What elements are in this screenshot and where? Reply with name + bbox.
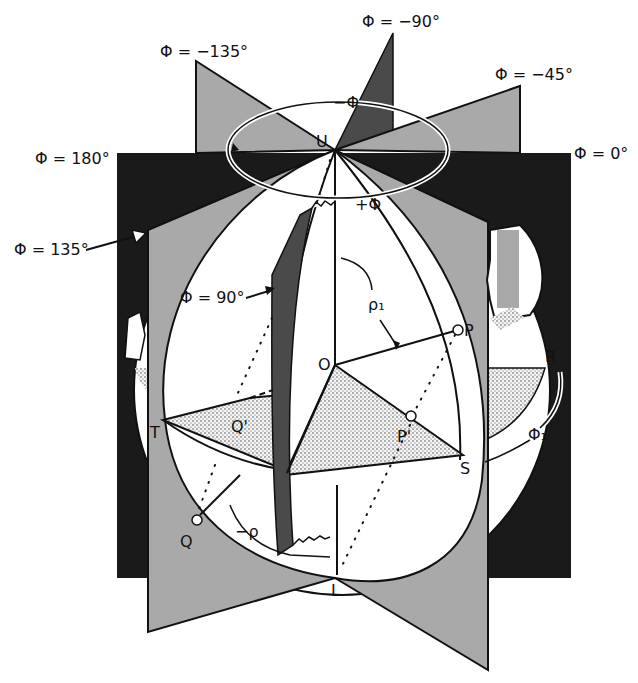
label-point-R: R (545, 347, 556, 366)
label-point-U: U (316, 132, 328, 151)
cutout-right-gray (497, 230, 519, 308)
label-phi-135: Φ = 135° (14, 240, 89, 259)
label-point-P-prime: P' (397, 427, 411, 446)
label-point-Q-prime: Q' (231, 417, 248, 436)
label-point-T: T (149, 423, 160, 442)
label-minus-rho: −ρ (235, 522, 259, 541)
point-Q-marker (192, 515, 202, 525)
label-phi-0: Φ = 0° (574, 144, 628, 163)
label-point-O: O (318, 355, 331, 374)
spherical-coordinates-diagram: Φ = −135° Φ = −90° Φ = −45° Φ = 180° Φ =… (0, 0, 638, 683)
label-phi-90: Φ = 90° (180, 288, 245, 307)
label-rho1: ρ₁ (368, 295, 385, 314)
cutout-left (125, 312, 145, 360)
label-phi-180: Φ = 180° (35, 149, 110, 168)
label-plus-phi: +Φ (355, 195, 381, 214)
label-point-P: P (464, 321, 474, 340)
label-minus-phi: −Φ (333, 93, 359, 112)
label-point-L: L (331, 581, 340, 600)
label-phi-minus-45: Φ = −45° (495, 65, 573, 84)
label-point-S: S (460, 459, 470, 478)
point-P-marker (453, 325, 463, 335)
label-phi-minus-90: Φ = −90° (362, 12, 440, 31)
plane-phi-minus-135 (196, 61, 335, 153)
point-P-prime-marker (406, 411, 416, 421)
label-phi-minus-135: Φ = −135° (160, 42, 248, 61)
label-point-Q: Q (180, 532, 193, 551)
label-phi1: Φ₁ (528, 425, 547, 444)
